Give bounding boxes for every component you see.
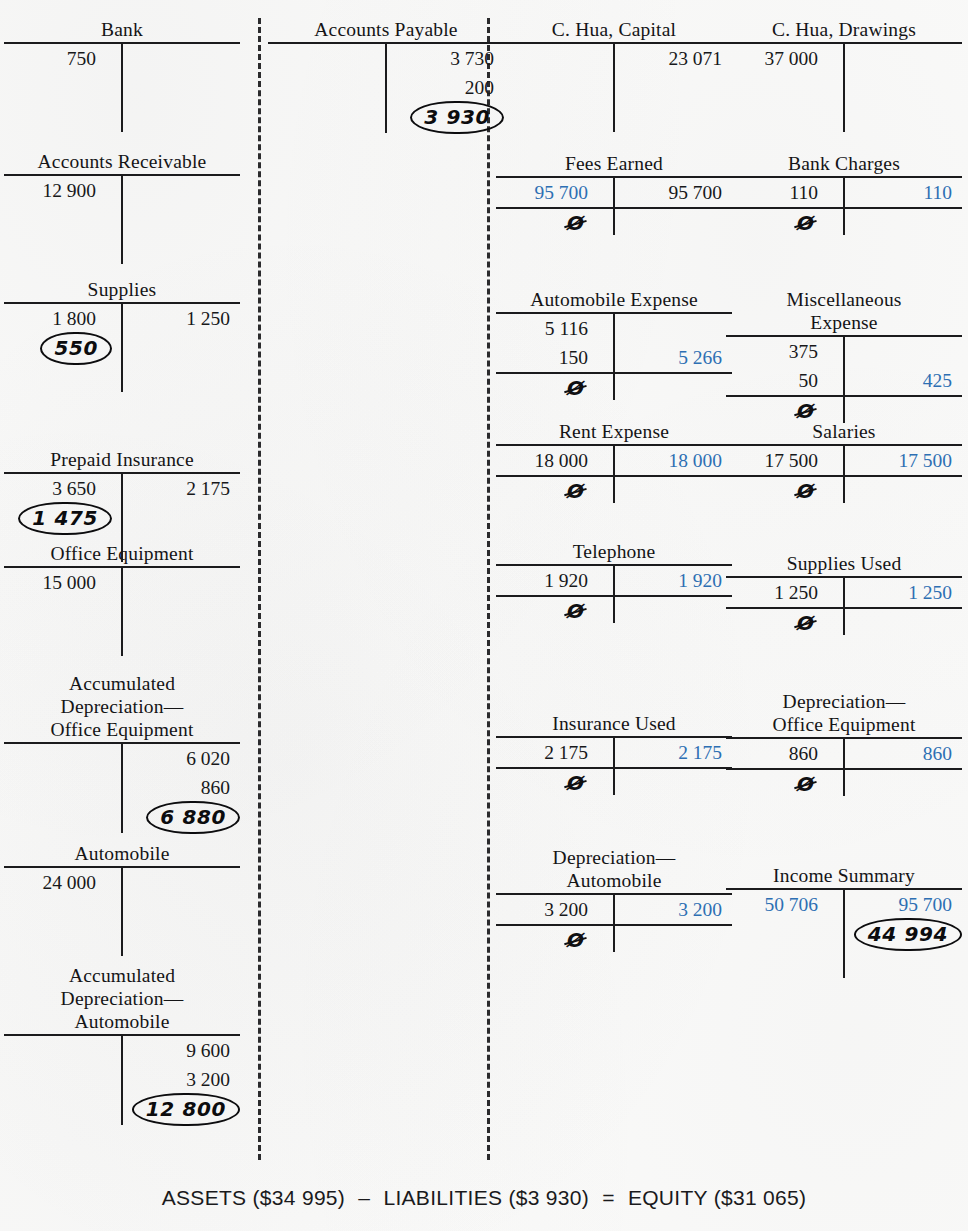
debit-amount: 5 116 bbox=[496, 318, 614, 340]
debit-amount: 50 bbox=[726, 370, 844, 392]
credit-amount: 95 700 bbox=[614, 182, 732, 204]
circled-balance-prepaid-insurance: 1 475 bbox=[20, 505, 110, 532]
account-entry-rows: 1 2501 250 bbox=[726, 578, 962, 607]
account-entry-row: 1505 266 bbox=[496, 343, 732, 372]
nil-balance-cell: Ø bbox=[726, 481, 844, 502]
t-account-depreciation-automobile: Depreciation— Automobile3 2003 200Ø bbox=[496, 846, 732, 954]
credit-amount: 2 175 bbox=[122, 478, 240, 500]
closing-rule bbox=[496, 595, 732, 597]
account-body-insurance-used: 2 1752 175Ø bbox=[496, 736, 732, 797]
nil-symbol-icon: Ø bbox=[567, 213, 584, 233]
account-body-income-summary: 50 70695 70044 994 bbox=[726, 888, 962, 950]
account-body-rent-expense: 18 00018 000Ø bbox=[496, 444, 732, 505]
closing-rule bbox=[496, 475, 732, 477]
equation-assets-label: ASSETS bbox=[162, 1186, 247, 1209]
circled-balance-supplies: 550 bbox=[42, 335, 110, 362]
t-account-depreciation-office-equipment: Depreciation— Office Equipment860860Ø bbox=[726, 690, 962, 798]
account-entry-rows: 23 071 bbox=[496, 44, 732, 73]
credit-amount: 860 bbox=[122, 777, 240, 799]
debit-amount: 860 bbox=[726, 743, 844, 765]
account-entry-row: 37 000 bbox=[726, 44, 962, 73]
account-title-bank: Bank bbox=[4, 18, 240, 41]
account-entry-row: 50425 bbox=[726, 366, 962, 395]
account-entry-row: 1 8001 250 bbox=[4, 304, 240, 333]
closing-rule bbox=[726, 768, 962, 770]
account-entry-row: 9 600 bbox=[4, 1036, 240, 1065]
nil-symbol-icon: Ø bbox=[797, 213, 814, 233]
credit-amount: 425 bbox=[844, 370, 962, 392]
equation-assets-value: ($34 995) bbox=[253, 1186, 346, 1209]
circled-balance-income-summary: 44 994 bbox=[856, 921, 960, 948]
account-entry-rows: 24 000 bbox=[4, 868, 240, 897]
credit-amount: 23 071 bbox=[614, 48, 732, 70]
account-body-automobile: 24 000 bbox=[4, 866, 240, 897]
credit-amount: 110 bbox=[844, 182, 962, 204]
nil-balance-cell: Ø bbox=[726, 213, 844, 234]
account-entry-rows: 12 900 bbox=[4, 176, 240, 205]
account-balance-row: 6 880 bbox=[4, 802, 240, 833]
nil-balance-cell: Ø bbox=[726, 774, 844, 795]
debit-amount: 50 706 bbox=[726, 894, 844, 916]
closing-rule bbox=[496, 372, 732, 374]
closing-rule bbox=[726, 207, 962, 209]
balance-credit-slot: 44 994 bbox=[844, 921, 962, 948]
account-entry-rows: 37 000 bbox=[726, 44, 962, 73]
account-entry-row: 23 071 bbox=[496, 44, 732, 73]
debit-amount: 12 900 bbox=[4, 180, 122, 202]
t-account-salaries: Salaries17 50017 500Ø bbox=[726, 420, 962, 505]
balance-credit-slot: 12 800 bbox=[122, 1096, 240, 1123]
account-title-fees-earned: Fees Earned bbox=[496, 152, 732, 175]
closing-rule bbox=[726, 475, 962, 477]
t-account-miscellaneous-expense: Miscellaneous Expense37550425Ø bbox=[726, 288, 962, 425]
debit-amount: 3 200 bbox=[496, 899, 614, 921]
account-title-depreciation-automobile: Depreciation— Automobile bbox=[496, 846, 732, 892]
account-entry-rows: 750 bbox=[4, 44, 240, 73]
t-account-office-equipment: Office Equipment15 000 bbox=[4, 542, 240, 597]
t-account-supplies-used: Supplies Used1 2501 250Ø bbox=[726, 552, 962, 637]
debit-amount: 24 000 bbox=[4, 872, 122, 894]
equation-liabilities-label: LIABILITIES bbox=[383, 1186, 502, 1209]
nil-balance-cell: Ø bbox=[496, 930, 614, 951]
account-entry-row: 3 200 bbox=[4, 1065, 240, 1094]
account-title-telephone: Telephone bbox=[496, 540, 732, 563]
credit-amount: 95 700 bbox=[844, 894, 962, 916]
debit-amount: 150 bbox=[496, 347, 614, 369]
equation-minus-operator: – bbox=[351, 1186, 377, 1209]
accounting-equation-footer: ASSETS ($34 995) – LIABILITIES ($3 930) … bbox=[0, 1186, 968, 1210]
equation-equity-label: EQUITY bbox=[628, 1186, 708, 1209]
account-entry-rows: 95 70095 700 bbox=[496, 178, 732, 207]
debit-amount: 375 bbox=[726, 341, 844, 363]
t-account-columns: Bank750Accounts Receivable12 900Supplies… bbox=[0, 0, 968, 1175]
account-title-miscellaneous-expense: Miscellaneous Expense bbox=[726, 288, 962, 334]
nil-symbol-icon: Ø bbox=[567, 773, 584, 793]
debit-amount: 15 000 bbox=[4, 572, 122, 594]
account-title-automobile: Automobile bbox=[4, 842, 240, 865]
account-body-prepaid-insurance: 3 6502 1751 475 bbox=[4, 472, 240, 534]
account-body-accumulated-depreciation-automobile: 9 6003 20012 800 bbox=[4, 1034, 240, 1125]
nil-symbol-icon: Ø bbox=[797, 401, 814, 421]
t-account-telephone: Telephone1 9201 920Ø bbox=[496, 540, 732, 625]
account-body-supplies: 1 8001 250550 bbox=[4, 302, 240, 364]
debit-amount: 37 000 bbox=[726, 48, 844, 70]
account-title-accumulated-depreciation-office-equipment: Accumulated Depreciation— Office Equipme… bbox=[4, 672, 240, 741]
t-account-accumulated-depreciation-automobile: Accumulated Depreciation— Automobile9 60… bbox=[4, 964, 240, 1125]
account-entry-row: 2 1752 175 bbox=[496, 738, 732, 767]
t-account-automobile-expense: Automobile Expense5 1161505 266Ø bbox=[496, 288, 732, 402]
circled-balance-accumulated-depreciation-office-equipment: 6 880 bbox=[148, 804, 238, 831]
balance-credit-slot: 3 930 bbox=[386, 104, 504, 131]
account-body-fees-earned: 95 70095 700Ø bbox=[496, 176, 732, 237]
credit-amount: 1 920 bbox=[614, 570, 732, 592]
t-account-prepaid-insurance: Prepaid Insurance3 6502 1751 475 bbox=[4, 448, 240, 534]
account-entry-row: 375 bbox=[726, 337, 962, 366]
account-title-office-equipment: Office Equipment bbox=[4, 542, 240, 565]
nil-balance-cell: Ø bbox=[726, 613, 844, 634]
account-entry-row: 6 020 bbox=[4, 744, 240, 773]
account-title-depreciation-office-equipment: Depreciation— Office Equipment bbox=[726, 690, 962, 736]
nil-symbol-icon: Ø bbox=[567, 378, 584, 398]
account-body-supplies-used: 1 2501 250Ø bbox=[726, 576, 962, 637]
credit-amount: 5 266 bbox=[614, 347, 732, 369]
account-body-miscellaneous-expense: 37550425Ø bbox=[726, 335, 962, 425]
account-entry-rows: 18 00018 000 bbox=[496, 446, 732, 475]
closing-rule bbox=[726, 395, 962, 397]
t-account-rent-expense: Rent Expense18 00018 000Ø bbox=[496, 420, 732, 505]
